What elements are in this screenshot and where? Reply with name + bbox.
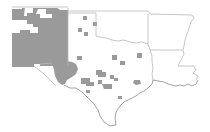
coastlines [64,80,198,126]
texas-gulf-coast [115,80,153,125]
tx-la-border [148,44,153,80]
county-11 [98,80,102,84]
county-9 [96,70,106,77]
county-17 [118,96,122,99]
west-texas-shaded [52,60,78,85]
county-12 [102,84,112,89]
rio-grande-upper [34,66,56,86]
county-4 [84,32,88,36]
county-8 [137,53,142,58]
ok-north-border [68,11,150,14]
county-1 [83,16,87,20]
ar-north-border [150,14,192,15]
county-5 [77,56,82,60]
louisiana-gulf-coast [153,80,198,86]
mississippi-river [178,15,194,66]
county-15 [114,78,118,81]
county-6 [112,55,117,60]
texas-shaded-counties [77,16,142,99]
county-13 [86,90,90,93]
new-mexico-region [12,7,68,67]
la-south-border [178,66,198,80]
county-10 [81,78,94,86]
tx-ok-red-river [96,13,148,44]
county-14 [110,75,114,79]
map-canvas [0,0,210,132]
county-16 [133,80,141,85]
county-7 [120,61,125,65]
county-3 [78,28,82,32]
